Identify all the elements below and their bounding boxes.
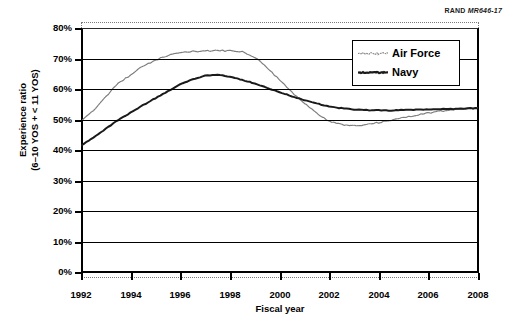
x-axis-tick-label: 2008 [467, 289, 488, 300]
x-axis-tick-label: 1998 [219, 289, 240, 300]
y-axis-tick-label: 0% [28, 266, 72, 277]
legend-label: Navy [392, 66, 418, 78]
x-axis-tick-label-wrap: 1992 [58, 284, 104, 302]
legend-swatch-icon [358, 49, 388, 58]
y-tick-mark [75, 28, 82, 30]
gridline-50 [81, 120, 478, 121]
y-axis-title-line1: Experience ratio [17, 35, 29, 205]
y-axis-title: Experience ratio (6–10 YOS + < 11 YOS) [17, 35, 41, 205]
x-axis-tick-label-wrap: 1996 [157, 284, 203, 302]
x-axis-tick-label: 1992 [70, 289, 91, 300]
y-axis-tick-label: 20% [28, 205, 72, 216]
source-credit-prefix: RAND [445, 7, 466, 14]
legend-line-glyph [358, 72, 388, 73]
x-axis-tick-label-wrap: 2002 [306, 284, 352, 302]
gridline-80 [81, 28, 478, 29]
y-axis-tick-label: 80% [28, 22, 72, 33]
chart-figure: RAND MR646-17 0%10%20%30%40%50%60%70%80%… [0, 0, 516, 335]
y-axis-tick-label: 10% [28, 236, 72, 247]
x-axis-tick-label-wrap: 2000 [257, 284, 303, 302]
x-axis-tick-label: 2004 [368, 289, 389, 300]
x-axis-title: Fiscal year [81, 303, 479, 314]
gridline-60 [81, 89, 478, 90]
y-tick-mark [75, 120, 82, 122]
chart-legend: Air ForceNavy [352, 40, 460, 86]
y-tick-mark [75, 59, 82, 61]
x-axis-tick-label-wrap: 2006 [405, 284, 451, 302]
y-axis-tick-label-wrap: 0% [28, 266, 72, 278]
x-axis-tick-label-wrap: 2008 [455, 284, 501, 302]
gridline-40 [81, 150, 478, 151]
x-tick-mark [379, 273, 381, 280]
gridline-30 [81, 181, 478, 182]
x-axis-tick-label: 2006 [417, 289, 438, 300]
x-axis-tick-label: 1996 [169, 289, 190, 300]
x-tick-mark [230, 273, 232, 280]
y-tick-mark [75, 211, 82, 213]
y-axis-tick-label-wrap: 10% [28, 236, 72, 248]
x-tick-mark [478, 273, 480, 280]
x-axis-tick-label-wrap: 1994 [108, 284, 154, 302]
x-axis-tick-label: 2002 [318, 289, 339, 300]
source-credit: RAND MR646-17 [445, 7, 502, 14]
gridline-20 [81, 211, 478, 212]
legend-line-glyph [358, 52, 388, 54]
source-credit-id: MR646-17 [468, 7, 502, 14]
legend-swatch-icon [358, 68, 388, 77]
x-axis-tick-label-wrap: 1998 [207, 284, 253, 302]
y-axis-tick-label-wrap: 80% [28, 22, 72, 34]
y-tick-mark [75, 150, 82, 152]
legend-label: Air Force [392, 47, 440, 59]
x-axis-tick-label: 1994 [120, 289, 141, 300]
legend-item-air-force[interactable]: Air Force [358, 45, 440, 61]
gridline-10 [81, 242, 478, 243]
x-tick-mark [131, 273, 133, 280]
y-tick-mark [75, 89, 82, 91]
x-axis-tick-label-wrap: 2004 [356, 284, 402, 302]
x-tick-mark [280, 273, 282, 280]
x-axis-tick-label: 2000 [269, 289, 290, 300]
y-tick-mark [75, 181, 82, 183]
x-tick-mark [180, 273, 182, 280]
x-tick-mark [428, 273, 430, 280]
legend-item-navy[interactable]: Navy [358, 64, 418, 80]
y-tick-mark [75, 242, 82, 244]
y-axis-tick-label-wrap: 20% [28, 205, 72, 217]
x-tick-mark [329, 273, 331, 280]
y-axis-title-line2: (6–10 YOS + < 11 YOS) [29, 35, 41, 205]
x-tick-mark [81, 273, 83, 280]
